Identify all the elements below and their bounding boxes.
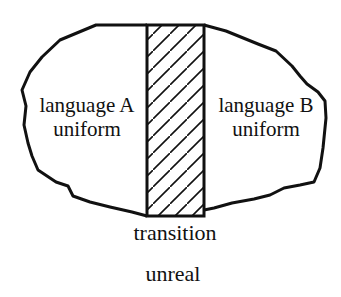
transition-zone (147, 25, 204, 216)
language-b-subtitle: uniform (205, 117, 327, 141)
language-region-diagram (0, 0, 341, 297)
language-a-title: language A (27, 93, 147, 117)
unreal-label: unreal (115, 262, 231, 286)
language-a-label: language A uniform (27, 93, 147, 141)
language-b-title: language B (205, 93, 327, 117)
language-a-subtitle: uniform (27, 117, 147, 141)
language-b-label: language B uniform (205, 93, 327, 141)
transition-label: transition (115, 221, 235, 245)
